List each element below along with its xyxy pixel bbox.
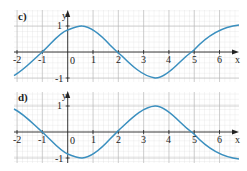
ytick-neg-c: -1 — [55, 73, 63, 84]
x-axis-label-c: x — [235, 54, 240, 65]
svg-text:4: 4 — [166, 134, 171, 145]
svg-text:2: 2 — [116, 134, 121, 145]
ytick-pos-d: 1 — [57, 100, 62, 111]
grid-d — [14, 92, 239, 163]
svg-text:-2: -2 — [13, 134, 21, 145]
svg-text:3: 3 — [141, 54, 146, 65]
x-axis-label-d: x — [235, 134, 240, 145]
svg-text:2: 2 — [116, 54, 121, 65]
svg-text:-1: -1 — [38, 54, 46, 65]
ytick-pos-c: 1 — [57, 20, 62, 31]
svg-text:3: 3 — [141, 134, 146, 145]
svg-text:5: 5 — [192, 54, 197, 65]
y-axis-label-c: y — [62, 10, 67, 21]
svg-text:1: 1 — [91, 54, 96, 65]
figure: c) y x 1 -1 -2 -1 0 1 2 3 4 5 6 — [0, 0, 247, 171]
panel-c: c) y x 1 -1 -2 -1 0 1 2 3 4 5 6 — [13, 10, 240, 84]
svg-text:6: 6 — [217, 54, 222, 65]
svg-text:-2: -2 — [13, 54, 21, 65]
svg-text:1: 1 — [91, 134, 96, 145]
panel-label-d: d) — [18, 91, 28, 104]
panel-d: d) y x 1 -1 -2 -1 0 1 2 3 4 5 6 — [13, 90, 240, 164]
y-axis-label-d: y — [62, 90, 67, 101]
svg-text:0: 0 — [70, 135, 75, 146]
panel-label-c: c) — [18, 10, 27, 23]
svg-text:-1: -1 — [38, 134, 46, 145]
svg-text:4: 4 — [166, 54, 171, 65]
svg-text:6: 6 — [217, 134, 222, 145]
ytick-neg-d: -1 — [55, 153, 63, 164]
svg-text:0: 0 — [70, 55, 75, 66]
svg-text:5: 5 — [192, 134, 197, 145]
